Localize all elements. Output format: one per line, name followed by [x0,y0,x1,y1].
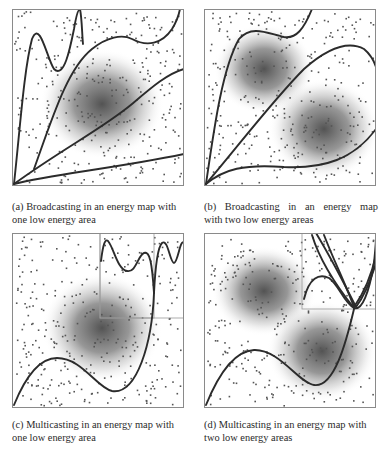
panel-c-multicast-one-area [12,233,184,408]
caption-d-line1: (d) Multicasting in an energy map with [204,418,379,431]
caption-a-line1: (a) Broadcasting in an energy map with [12,200,187,213]
caption-d-line2: two low energy areas [204,431,379,444]
caption-c: (c) Multicasting in an energy map with o… [12,418,187,444]
panel-d-multicast-two-areas [204,233,376,408]
caption-d: (d) Multicasting in an energy map with t… [204,418,379,444]
caption-c-line2: one low energy area [12,431,187,444]
low-energy-area [42,273,162,383]
caption-b: (b) Broadcasting in an energy map with t… [204,200,378,226]
caption-b-line1: (b) Broadcasting in an energy map [204,200,378,213]
energy-map-b [204,9,376,186]
panel-a-broadcast-one-area [12,9,184,186]
caption-b-line2: with two low energy areas [204,213,378,226]
energy-map-a [12,9,184,186]
caption-a: (a) Broadcasting in an energy map with o… [12,200,187,226]
energy-map-c [12,233,184,408]
energy-map-d [204,233,376,408]
low-energy-area [267,301,376,401]
caption-c-line1: (c) Multicasting in an energy map with [12,418,187,431]
panel-b-broadcast-two-areas [204,9,376,186]
caption-a-line2: one low energy area [12,213,187,226]
